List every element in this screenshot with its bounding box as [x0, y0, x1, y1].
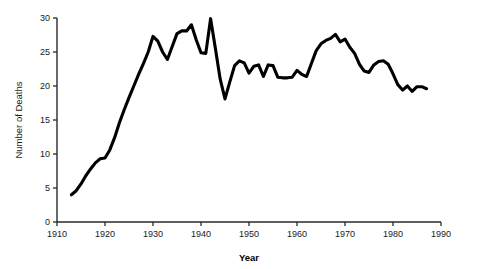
x-tick-label: 1950 [239, 229, 259, 239]
y-axis-title: Number of Deaths [13, 81, 24, 158]
x-tick-label: 1970 [335, 229, 355, 239]
y-tick-label: 0 [45, 217, 50, 227]
y-tick-label: 5 [45, 183, 50, 193]
x-axis-title: Year [239, 252, 259, 263]
y-tick-label: 30 [40, 13, 50, 23]
x-tick-label: 1920 [95, 229, 115, 239]
x-tick-label: 1910 [47, 229, 67, 239]
x-tick-label: 1940 [191, 229, 211, 239]
y-tick-label: 25 [40, 47, 50, 57]
x-tick-label: 1960 [287, 229, 307, 239]
x-tick-label: 1930 [143, 229, 163, 239]
x-tick-label: 1980 [383, 229, 403, 239]
x-tick-label: 1990 [431, 229, 451, 239]
y-tick-label: 20 [40, 81, 50, 91]
y-tick-label: 10 [40, 149, 50, 159]
x-axis-tick-labels: 191019201930194019501960197019801990 [47, 229, 451, 239]
line-chart-figure: 051015202530 191019201930194019501960197… [0, 0, 478, 269]
y-tick-label: 15 [40, 115, 50, 125]
